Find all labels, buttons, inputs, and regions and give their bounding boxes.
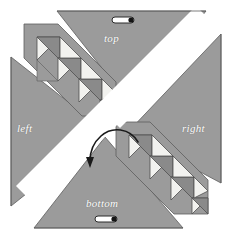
panel-label-right: right (182, 122, 205, 134)
bottom-handle[interactable] (95, 216, 117, 222)
top-handle[interactable] (112, 17, 134, 23)
figure-canvas: top left right bottom (0, 0, 232, 238)
panel-label-left: left (17, 122, 32, 134)
top-handle-dot (128, 17, 133, 22)
bottom-handle-dot (111, 216, 116, 221)
panel-label-bottom: bottom (86, 197, 118, 209)
panel-label-top: top (104, 32, 119, 44)
